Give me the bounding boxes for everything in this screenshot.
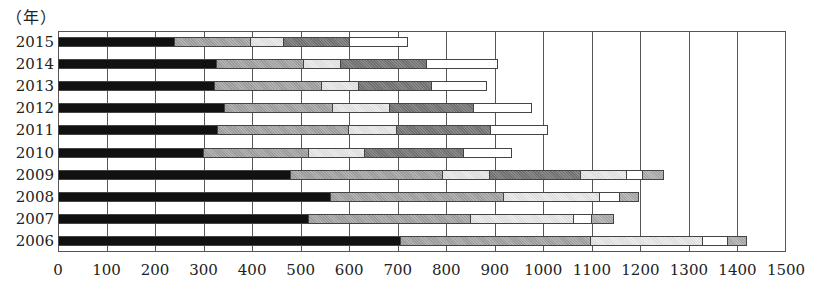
bar-2009 [58, 170, 664, 180]
bar-segment-black [58, 59, 217, 69]
bar-segment-light [581, 170, 627, 180]
bar-segment-medgray [218, 125, 349, 135]
bar-segment-light [322, 81, 359, 91]
x-tick-label: 0 [53, 261, 63, 279]
bar-segment-light [251, 37, 284, 47]
bar-segment-white [703, 236, 728, 246]
bar-segment-light [504, 192, 600, 202]
bar-segment-medgray [401, 236, 591, 246]
bar-segment-gray [592, 214, 614, 224]
bar-2013 [58, 81, 487, 91]
bar-segment-light [309, 148, 365, 158]
bar-segment-medgray [225, 103, 333, 113]
bar-segment-dark [365, 148, 464, 158]
x-tick-label: 300 [189, 261, 218, 279]
y-tick-label: 2011 [0, 122, 54, 138]
bar-segment-black [58, 125, 218, 135]
bar-2010 [58, 148, 512, 158]
y-axis-unit-label: （年） [6, 4, 57, 28]
bar-segment-black [58, 81, 215, 91]
gridline [689, 32, 690, 251]
bar-segment-medgray [309, 214, 471, 224]
bar-segment-light [349, 125, 397, 135]
x-tick-label: 1200 [621, 261, 659, 279]
x-tick-label: 500 [286, 261, 315, 279]
bar-segment-black [58, 192, 331, 202]
bar-segment-medgray [217, 59, 304, 69]
bar-segment-white [432, 81, 487, 91]
bar-segment-light [333, 103, 390, 113]
bar-segment-dark [359, 81, 432, 91]
bar-segment-light [304, 59, 341, 69]
y-tick-label: 2007 [0, 211, 54, 227]
bar-segment-black [58, 170, 291, 180]
x-tick-label: 1000 [524, 261, 562, 279]
bar-segment-dark [390, 103, 474, 113]
bar-segment-light [591, 236, 703, 246]
y-tick-label: 2015 [0, 34, 54, 50]
x-tick-label: 200 [141, 261, 170, 279]
stacked-bar-chart: （年） 201520142013201220112010200920082007… [0, 0, 818, 299]
bar-segment-light [443, 170, 490, 180]
bar-segment-white [474, 103, 532, 113]
bar-segment-medgray [215, 81, 322, 91]
bar-segment-medgray [204, 148, 309, 158]
x-tick-label: 700 [383, 261, 412, 279]
x-tick-label: 600 [335, 261, 364, 279]
bar-segment-white [491, 125, 548, 135]
bar-segment-black [58, 148, 204, 158]
x-tick-label: 1500 [767, 261, 805, 279]
bar-segment-medgray [175, 37, 251, 47]
bar-2015 [58, 37, 408, 47]
bar-segment-dark [397, 125, 491, 135]
x-tick-label: 400 [238, 261, 267, 279]
y-tick-label: 2013 [0, 78, 54, 94]
y-tick-label: 2009 [0, 167, 54, 183]
bar-segment-black [58, 214, 309, 224]
y-tick-label: 2006 [0, 233, 54, 249]
gridline [737, 32, 738, 251]
bar-segment-gray [728, 236, 747, 246]
bar-segment-dark [284, 37, 350, 47]
y-tick-label: 2010 [0, 145, 54, 161]
bar-2011 [58, 125, 548, 135]
x-tick-label: 100 [92, 261, 121, 279]
x-tick-label: 1400 [718, 261, 756, 279]
bar-segment-medgray [331, 192, 504, 202]
bar-segment-dark [490, 170, 581, 180]
bar-2014 [58, 59, 498, 69]
bar-segment-dark [341, 59, 427, 69]
bar-segment-white [600, 192, 620, 202]
y-tick-label: 2008 [0, 189, 54, 205]
bar-segment-black [58, 37, 175, 47]
bar-segment-white [574, 214, 592, 224]
x-tick-label: 1300 [670, 261, 708, 279]
bar-segment-medgray [291, 170, 443, 180]
bar-segment-black [58, 236, 401, 246]
bar-segment-white [427, 59, 498, 69]
bar-2012 [58, 103, 532, 113]
x-tick-label: 1100 [573, 261, 611, 279]
bar-segment-white [627, 170, 644, 180]
gridline [640, 32, 641, 251]
bar-segment-light [471, 214, 574, 224]
bar-2008 [58, 192, 639, 202]
bar-segment-white [464, 148, 512, 158]
y-tick-label: 2014 [0, 56, 54, 72]
bar-segment-gray [643, 170, 664, 180]
bar-segment-white [350, 37, 408, 47]
y-tick-label: 2012 [0, 100, 54, 116]
x-tick-label: 800 [432, 261, 461, 279]
x-tick-label: 900 [480, 261, 509, 279]
bar-segment-gray [620, 192, 639, 202]
bar-segment-black [58, 103, 225, 113]
bar-2007 [58, 214, 614, 224]
bar-2006 [58, 236, 747, 246]
